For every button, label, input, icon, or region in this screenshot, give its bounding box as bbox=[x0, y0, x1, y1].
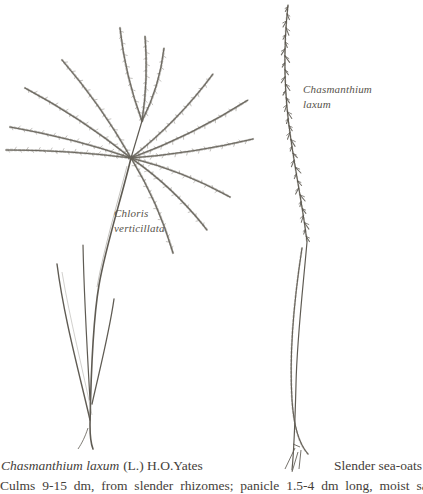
chasmanthium-spikelets bbox=[281, 5, 309, 242]
chloris-verticillata-illustration bbox=[6, 28, 253, 449]
figure-label-line: laxum bbox=[303, 97, 372, 112]
figure-label-chloris-verticillata: Chloris verticillata bbox=[114, 206, 165, 236]
description-text: Culms 9-15 dm, from slender rhizomes; pa… bbox=[0, 478, 423, 494]
figure-label-chasmanthium-laxum: Chasmanthium laxum bbox=[303, 82, 372, 112]
chloris-basal-blade bbox=[78, 428, 88, 449]
chloris-leaf bbox=[57, 264, 90, 420]
caption-row: Chasmanthium laxum(L.) H.O.Yates Slender… bbox=[1, 458, 422, 475]
chasmanthium-laxum-illustration bbox=[281, 5, 309, 472]
chloris-stem bbox=[90, 158, 131, 449]
species-authority: (L.) H.O.Yates bbox=[123, 458, 203, 473]
figure-label-line: Chasmanthium bbox=[303, 82, 372, 97]
chasmanthium-leaf bbox=[291, 248, 308, 454]
species-heading: Chasmanthium laxum(L.) H.O.Yates bbox=[1, 458, 203, 474]
common-name: Slender sea-oats bbox=[334, 458, 422, 474]
species-name-italic: Chasmanthium laxum bbox=[1, 458, 119, 473]
chasmanthium-culm bbox=[292, 242, 307, 470]
figure-label-line: verticillata bbox=[114, 221, 165, 236]
figure-label-line: Chloris bbox=[114, 206, 165, 221]
